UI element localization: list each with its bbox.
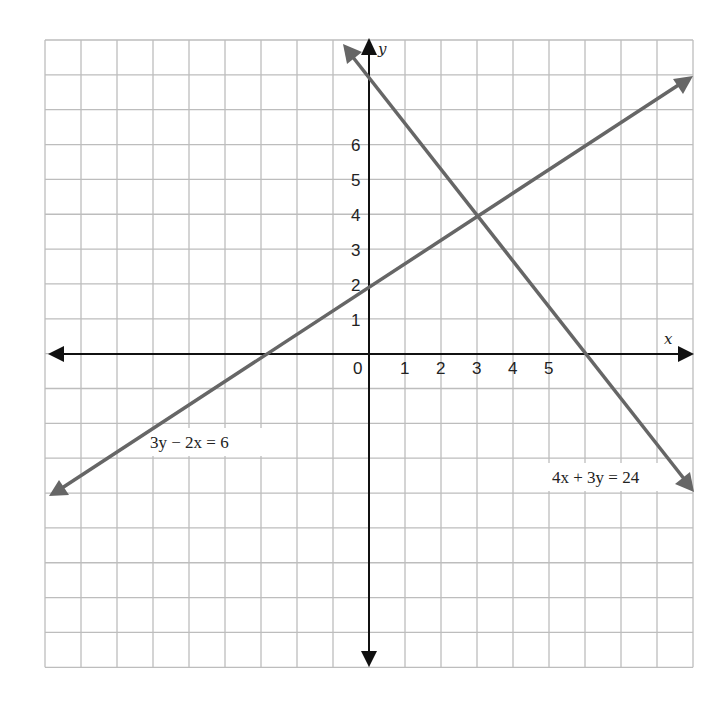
x-tick-labels: 0 1 2 3 4 5 (353, 359, 553, 378)
y-tick-3: 3 (351, 241, 360, 260)
origin-label: 0 (353, 359, 362, 378)
graph-lines (49, 44, 694, 496)
y-tick-2: 2 (351, 276, 360, 295)
y-tick-5: 5 (351, 171, 360, 190)
line2-upper-arrow-icon (343, 44, 362, 64)
x-tick-2: 2 (436, 359, 445, 378)
x-tick-5: 5 (544, 359, 553, 378)
x-tick-1: 1 (400, 359, 409, 378)
eq2-label: 4x + 3y = 24 (552, 468, 640, 487)
y-tick-1: 1 (351, 311, 360, 330)
eq1-label: 3y − 2x = 6 (150, 433, 229, 452)
coordinate-graph: 0 1 2 3 4 5 1 2 3 4 5 6 x y 3y − 2x = 6 … (0, 0, 724, 709)
x-tick-3: 3 (472, 359, 481, 378)
y-axis-down-arrow-icon (361, 651, 377, 667)
x-axis-left-arrow-icon (48, 346, 64, 362)
axes (48, 38, 694, 667)
y-axis-label: y (377, 40, 387, 58)
x-axis-right-arrow-icon (678, 346, 694, 362)
y-tick-6: 6 (351, 136, 360, 155)
line1-lower-arrow-icon (49, 480, 69, 496)
y-tick-4: 4 (351, 206, 360, 225)
y-tick-labels: 1 2 3 4 5 6 (351, 136, 360, 330)
line-4x-plus-3y-eq-24 (352, 56, 685, 480)
x-axis-label: x (664, 330, 673, 348)
x-tick-4: 4 (508, 359, 517, 378)
line2-lower-arrow-icon (675, 472, 694, 492)
